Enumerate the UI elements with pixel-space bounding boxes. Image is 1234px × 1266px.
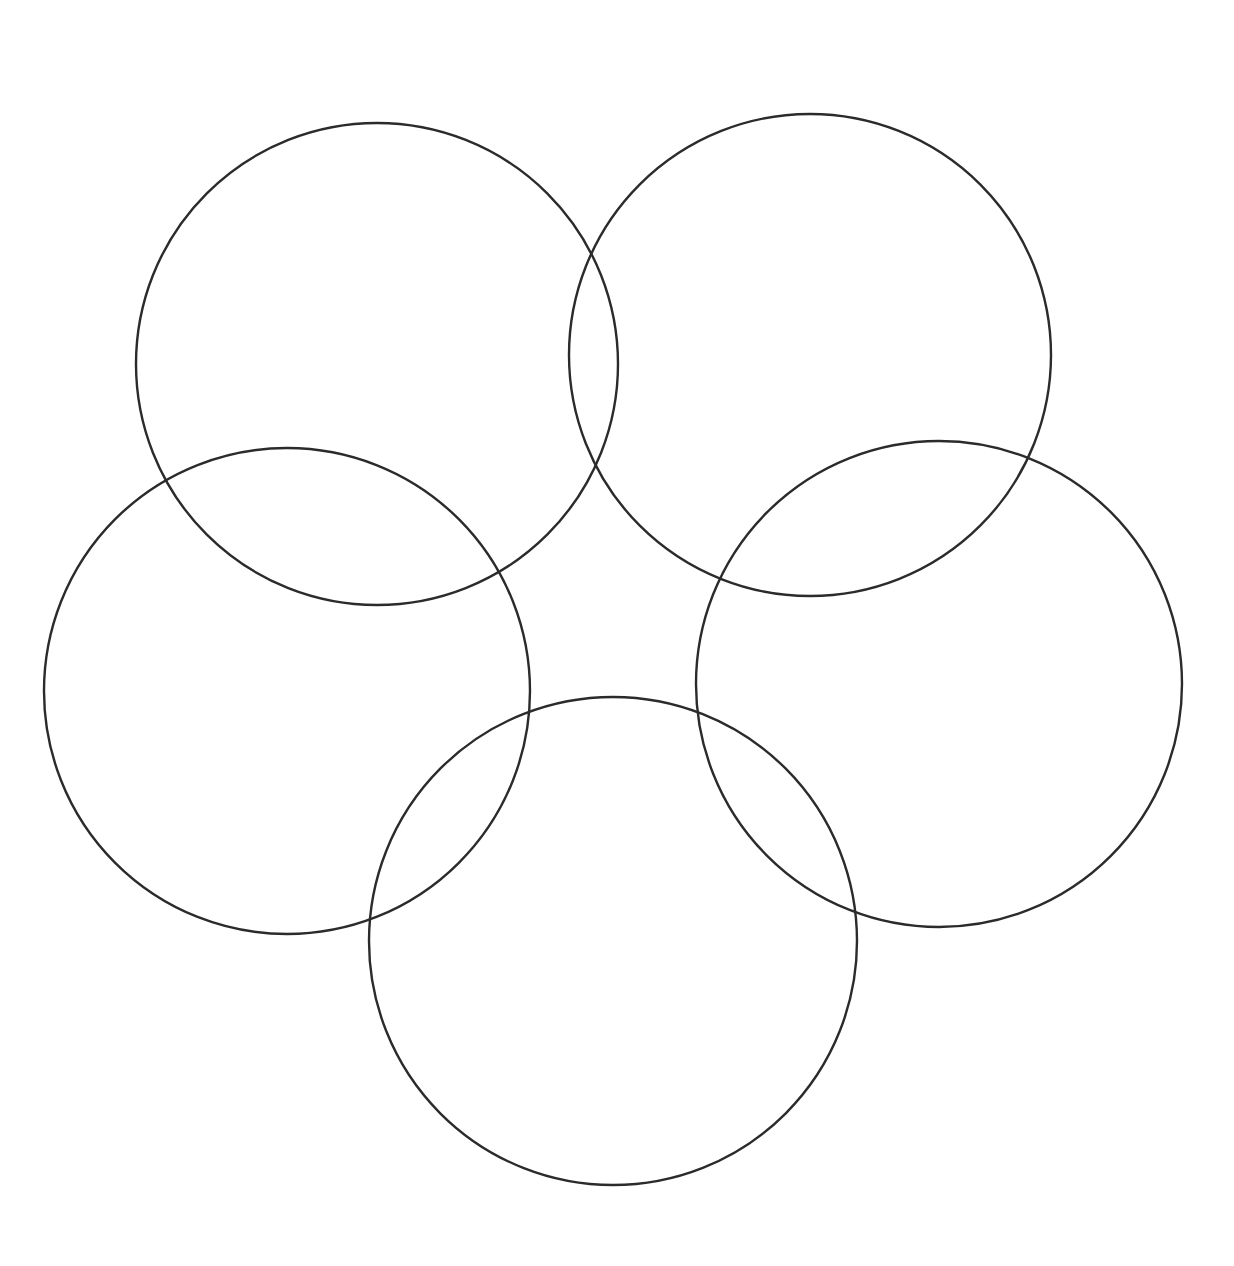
figure-background [0, 0, 1234, 1266]
five-circles-figure: Five Interlocking Circles [0, 0, 1234, 1266]
